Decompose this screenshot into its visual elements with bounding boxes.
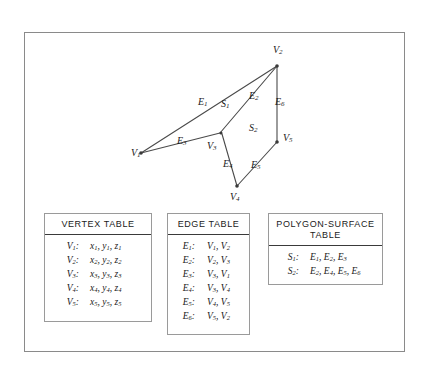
table-row: E6: V5, V2: [168, 310, 249, 324]
edge-row-key: E1:: [168, 240, 195, 254]
polygon-surface-table-body: S1: E1, E2, E3 S2: E2, E4, E5, E6: [269, 246, 382, 284]
edge-row-key: E6:: [168, 310, 195, 324]
polygon-surface-title-line-1: POLYGON-SURFACE: [271, 219, 380, 230]
table-row: E1: V1, V2: [168, 240, 249, 254]
table-row: V2: x2, y2, z2: [45, 254, 151, 268]
edge-table: EDGE TABLE E1: V1, V2 E2: V2, V3 E3: V3,…: [167, 213, 250, 335]
edge-row-vertices: V2, V3: [195, 254, 230, 268]
edge-row-vertices: V3, V4: [195, 282, 230, 296]
surface-label-s1: S1: [221, 98, 230, 110]
vertex-table-body: V1: x1, y1, z1 V2: x2, y2, z2 V3: x3, y3…: [45, 235, 151, 315]
vertex-row-key: V5:: [45, 296, 79, 310]
edge-row-vertices: V5, V2: [195, 310, 230, 324]
vertex-row-coords: x2, y2, z2: [79, 254, 121, 268]
vertex-label-v2: V2: [273, 44, 283, 56]
vertex-label-v3: V3: [207, 140, 217, 152]
edge-table-body: E1: V1, V2 E2: V2, V3 E3: V3, V1 E4: V3,…: [168, 235, 249, 329]
vertex-label-v1: V1: [131, 147, 141, 159]
polygon-surface-table-title: POLYGON-SURFACE TABLE: [269, 214, 382, 246]
vertex-row-key: V1:: [45, 240, 79, 254]
edge-row-vertices: V1, V2: [195, 240, 230, 254]
edge-label-e4: E4: [223, 158, 233, 170]
surface-row-edges: E1, E2, E3: [299, 251, 347, 265]
vertex-row-coords: x5, y5, z5: [79, 296, 121, 310]
table-row: V3: x3, y3, z3: [45, 268, 151, 282]
surface-row-edges: E2, E4, E5, E6: [299, 265, 361, 279]
vertex-row-coords: x1, y1, z1: [79, 240, 121, 254]
table-row: S2: E2, E4, E5, E6: [269, 265, 382, 279]
edge-row-key: E2:: [168, 254, 195, 268]
polygon-surface-title-line-2: TABLE: [271, 230, 380, 241]
edge-row-key: E4:: [168, 282, 195, 296]
table-row: E5: V4, V5: [168, 296, 249, 310]
vertex-row-key: V3:: [45, 268, 79, 282]
table-row: E2: V2, V3: [168, 254, 249, 268]
edge-label-e2: E2: [249, 90, 259, 102]
edge-row-key: E5:: [168, 296, 195, 310]
table-row: S1: E1, E2, E3: [269, 251, 382, 265]
vertex-row-key: V2:: [45, 254, 79, 268]
table-row: V5: x5, y5, z5: [45, 296, 151, 310]
edge-label-e1: E1: [198, 96, 208, 108]
edge-label-e5: E5: [251, 159, 261, 171]
table-row: V4: x4, y4, z4: [45, 282, 151, 296]
surface-label-s2: S2: [249, 122, 258, 134]
vertex-row-coords: x3, y3, z3: [79, 268, 121, 282]
surface-row-key: S1:: [269, 251, 299, 265]
vertex-row-coords: x4, y4, z4: [79, 282, 121, 296]
edge-row-vertices: V3, V1: [195, 268, 230, 282]
edge-row-vertices: V4, V5: [195, 296, 230, 310]
edge-table-title: EDGE TABLE: [168, 214, 249, 235]
table-row: V1: x1, y1, z1: [45, 240, 151, 254]
table-row: E4: V3, V4: [168, 282, 249, 296]
vertex-row-key: V4:: [45, 282, 79, 296]
edge-label-e6: E6: [275, 96, 285, 108]
vertex-label-v4: V4: [230, 191, 240, 203]
polygon-surface-table: POLYGON-SURFACE TABLE S1: E1, E2, E3 S2:…: [268, 213, 383, 285]
vertex-label-v5: V5: [283, 132, 293, 144]
surface-row-key: S2:: [269, 265, 299, 279]
edge-label-e3: E3: [177, 135, 187, 147]
edge-row-key: E3:: [168, 268, 195, 282]
vertex-table-title: VERTEX TABLE: [45, 214, 151, 235]
vertex-table: VERTEX TABLE V1: x1, y1, z1 V2: x2, y2, …: [44, 213, 152, 322]
table-row: E3: V3, V1: [168, 268, 249, 282]
